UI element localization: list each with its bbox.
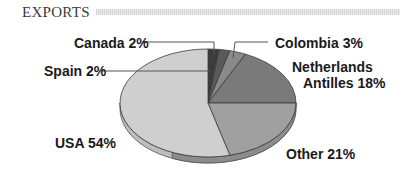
label-canada: Canada 2% [74, 35, 149, 51]
label-spain: Spain 2% [44, 63, 106, 79]
label-other: Other 21% [286, 146, 355, 162]
pie-slices [120, 49, 296, 157]
label-colombia: Colombia 3% [275, 35, 363, 51]
label-usa: USA 54% [55, 135, 116, 151]
label-netherlands-antilles-line1: Netherlands [292, 59, 373, 75]
label-netherlands-antilles-line2: Antilles 18% [303, 75, 385, 91]
